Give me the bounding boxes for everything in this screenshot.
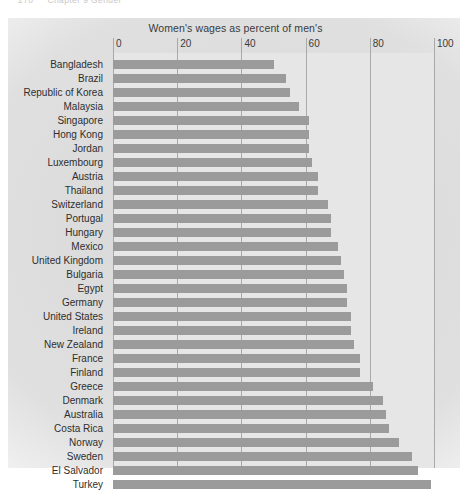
bar-row <box>113 422 434 436</box>
bar-row <box>113 128 434 142</box>
bar-row <box>113 408 434 422</box>
bar-row <box>113 380 434 394</box>
bar <box>113 312 351 321</box>
category-label: Hong Kong <box>0 128 108 142</box>
bar <box>113 452 412 461</box>
x-tick-label: 0 <box>113 38 122 49</box>
x-tick-label: 60 <box>306 38 320 49</box>
bar-row <box>113 100 434 114</box>
category-label: Luxembourg <box>0 156 108 170</box>
category-label: Turkey <box>0 478 108 492</box>
bar <box>113 340 354 349</box>
bar <box>113 172 318 181</box>
bar <box>113 242 338 251</box>
bar-row <box>113 114 434 128</box>
bar <box>113 382 373 391</box>
category-label: Switzerland <box>0 198 108 212</box>
bar <box>113 284 347 293</box>
bar <box>113 102 299 111</box>
bar-row <box>113 226 434 240</box>
category-label: Sweden <box>0 450 108 464</box>
category-label: Costa Rica <box>0 422 108 436</box>
bar <box>113 200 328 209</box>
bar <box>113 214 331 223</box>
category-label: Republic of Korea <box>0 86 108 100</box>
bar <box>113 256 341 265</box>
category-label: France <box>0 352 108 366</box>
category-label: Malaysia <box>0 100 108 114</box>
bar <box>113 74 286 83</box>
x-tick-label: 100 <box>434 38 454 49</box>
bar <box>113 298 347 307</box>
bar <box>113 228 331 237</box>
bar <box>113 466 418 475</box>
bar-row <box>113 478 434 492</box>
bar-row <box>113 240 434 254</box>
bar <box>113 396 383 405</box>
running-head-title: Chapter 9 Gender <box>47 0 121 5</box>
bar-row <box>113 254 434 268</box>
bar-row <box>113 338 434 352</box>
category-label: El Salvador <box>0 464 108 478</box>
category-label: Portugal <box>0 212 108 226</box>
category-label: Jordan <box>0 142 108 156</box>
x-axis-tick-labels: 020406080100 <box>113 38 434 52</box>
bar-row <box>113 296 434 310</box>
running-head: 270Chapter 9 Gender <box>18 0 122 5</box>
category-label: Singapore <box>0 114 108 128</box>
category-label: Denmark <box>0 394 108 408</box>
bar-row <box>113 142 434 156</box>
x-tick-label: 80 <box>370 38 384 49</box>
category-label: Germany <box>0 296 108 310</box>
category-label: Ireland <box>0 324 108 338</box>
gridline <box>434 38 435 468</box>
chart-title: Women's wages as percent of men's <box>0 22 471 34</box>
category-label: Norway <box>0 436 108 450</box>
bar-row <box>113 156 434 170</box>
bar <box>113 354 360 363</box>
bar <box>113 424 389 433</box>
category-label: New Zealand <box>0 338 108 352</box>
bar-row <box>113 86 434 100</box>
bar-row <box>113 324 434 338</box>
category-label: Egypt <box>0 282 108 296</box>
category-label: Thailand <box>0 184 108 198</box>
bar <box>113 368 360 377</box>
category-label: Mexico <box>0 240 108 254</box>
bar-row <box>113 282 434 296</box>
bar-row <box>113 366 434 380</box>
category-label: Austria <box>0 170 108 184</box>
bar <box>113 60 274 69</box>
bar-row <box>113 436 434 450</box>
bar <box>113 116 309 125</box>
bar-row <box>113 184 434 198</box>
bar-row <box>113 58 434 72</box>
bar-row <box>113 394 434 408</box>
category-label: Greece <box>0 380 108 394</box>
bar <box>113 326 351 335</box>
page-folio: 270 <box>18 0 33 5</box>
category-label: Finland <box>0 366 108 380</box>
bar <box>113 88 290 97</box>
bar-row <box>113 212 434 226</box>
x-tick-label: 40 <box>241 38 255 49</box>
bar <box>113 158 312 167</box>
bar <box>113 438 399 447</box>
bar <box>113 144 309 153</box>
x-tick-label: 20 <box>177 38 191 49</box>
category-label: United States <box>0 310 108 324</box>
category-label: Bangladesh <box>0 58 108 72</box>
category-label: Bulgaria <box>0 268 108 282</box>
bar-row <box>113 310 434 324</box>
bar-row <box>113 268 434 282</box>
bar-row <box>113 464 434 478</box>
bar-row <box>113 72 434 86</box>
category-axis-labels: BangladeshBrazilRepublic of KoreaMalaysi… <box>0 58 108 492</box>
bar <box>113 186 318 195</box>
bar <box>113 480 431 489</box>
category-label: Hungary <box>0 226 108 240</box>
category-label: Brazil <box>0 72 108 86</box>
bar <box>113 410 386 419</box>
category-label: Australia <box>0 408 108 422</box>
